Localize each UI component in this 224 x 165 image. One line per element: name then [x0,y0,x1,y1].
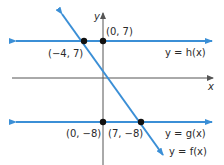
line-h-label: y = h(x) [165,47,206,58]
point-label-0-7: (0, 7) [106,26,133,37]
point-label-7-neg8: (7, −8) [108,128,143,139]
point-label-neg4-7: (−4, 7) [48,48,83,59]
line-f-label: y = f(x) [169,146,207,157]
x-axis-label: x [207,81,214,92]
line-g-label: y = g(x) [165,128,206,139]
point-neg4-7 [81,38,87,44]
point-0-7 [100,38,106,44]
point-label-0-neg8: (0, −8) [66,128,101,139]
graph-canvas: x y y = h(x) y = g(x) y = f(x) (−4, 7) (… [0,0,224,165]
point-7-neg8 [138,119,144,125]
point-0-neg8 [100,119,106,125]
y-axis-label: y [93,11,101,22]
